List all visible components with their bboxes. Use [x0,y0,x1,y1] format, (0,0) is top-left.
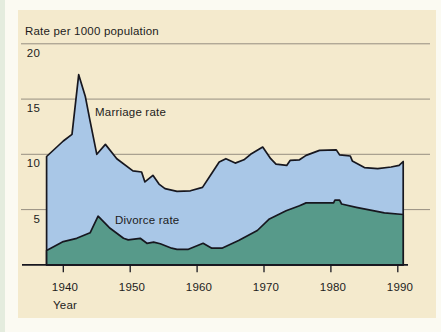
chart-panel [18,10,436,318]
y-axis-tick-label-10: 10 [14,157,40,169]
series-label-marriage-rate: Marriage rate [95,106,166,118]
scan-edge-strip [0,0,5,332]
x-axis-title: Year [53,299,77,311]
y-axis-tick-label-5: 5 [14,213,40,225]
x-axis-tick-label-1940: 1940 [43,281,87,293]
x-axis-tick-label-1980: 1980 [311,281,355,293]
x-axis-tick-label-1990: 1990 [378,281,422,293]
y-axis-tick-label-20: 20 [14,47,40,59]
y-axis-tick-label-15: 15 [14,102,40,114]
x-axis-tick-label-1960: 1960 [177,281,221,293]
page-root: { "chart_data": { "type": "area", "title… [0,0,441,332]
x-axis-tick-label-1970: 1970 [244,281,288,293]
x-axis-tick-label-1950: 1950 [110,281,154,293]
series-label-divorce-rate: Divorce rate [115,214,179,226]
chart-title: Rate per 1000 population [25,25,159,37]
